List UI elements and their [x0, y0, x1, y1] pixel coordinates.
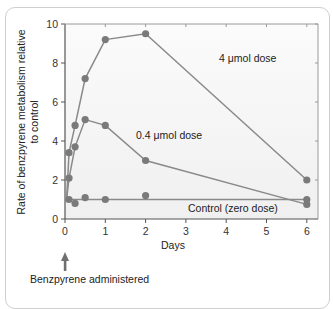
y-axis-title-line1: Rate of benzpyrene metabolism relative [15, 29, 27, 214]
data-point [102, 196, 109, 203]
data-point [102, 36, 109, 43]
series-label-4umol: 4 μmol dose [219, 52, 277, 64]
y-tick-label: 10 [46, 18, 58, 30]
data-point [82, 116, 89, 123]
y-tick-label: 0 [52, 213, 58, 225]
data-point [65, 196, 72, 203]
data-point [82, 194, 89, 201]
annotation-text: Benzpyrene administered [30, 273, 149, 285]
x-tick-label: 5 [264, 225, 270, 237]
data-point [142, 157, 149, 164]
data-point [102, 122, 109, 129]
x-tick-label: 1 [102, 225, 108, 237]
x-tick-label: 0 [62, 225, 68, 237]
x-tick-label: 4 [223, 225, 229, 237]
plot-area [65, 24, 318, 219]
data-point [71, 143, 78, 150]
data-point [65, 174, 72, 181]
plot-background [65, 24, 318, 219]
data-point [142, 30, 149, 37]
y-tick-label: 8 [52, 57, 58, 69]
data-point [65, 149, 72, 156]
series-label-control: Control (zero dose) [188, 202, 278, 214]
y-tick-label: 2 [52, 174, 58, 186]
x-axis-title: Days [161, 239, 185, 251]
x-tick-label: 6 [304, 225, 310, 237]
x-tick-label: 2 [143, 225, 149, 237]
data-point [303, 176, 310, 183]
y-tick-label: 6 [52, 96, 58, 108]
data-point [82, 75, 89, 82]
data-point [71, 122, 78, 129]
y-axis-title: Rate of benzpyrene metabolism relative t… [15, 29, 40, 214]
arrow-shaft [64, 259, 67, 271]
data-point [303, 196, 310, 203]
y-tick-label: 4 [52, 135, 58, 147]
data-point [142, 192, 149, 199]
x-tick-label: 3 [183, 225, 189, 237]
y-axis-title-line2: to control [28, 100, 40, 143]
series-label-0-4umol: 0.4 μmol dose [136, 129, 202, 141]
data-point [71, 200, 78, 207]
annotation-benzpyrene-administered: Benzpyrene administered [30, 252, 149, 285]
